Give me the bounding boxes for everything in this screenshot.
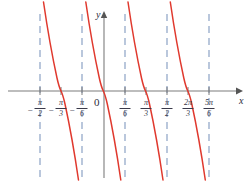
tick-denominator: 6 [120,110,131,119]
x-tick-label-neg-pi-over-2: − π 2 [35,99,46,118]
x-axis-arrow [236,88,243,95]
tick-numerator: π [141,99,152,108]
x-tick-label-pi-over-6: π 6 [120,99,131,118]
tick-denominator: 3 [141,110,152,119]
tick-sign: − [28,106,33,115]
x-tick-label-pi-over-2: π 2 [162,99,173,118]
origin-label: 0 [94,97,100,108]
x-tick-label-2pi-over-3: 2π 3 [183,99,194,118]
asymptote-group [40,14,209,178]
tick-denominator: 6 [77,110,88,119]
tick-denominator: 2 [162,110,173,119]
x-tick-label-neg-pi-over-3: − π 3 [56,99,67,118]
tick-sign: − [49,106,54,115]
tick-denominator: 3 [183,110,194,119]
tick-sign: − [70,106,75,115]
tick-numerator: 2π [183,99,194,108]
plot-canvas [0,0,250,181]
cotangent-graph-figure: − π 2 − π 3 − π 6 π 6 π 3 [0,0,250,181]
tick-numerator: π [162,99,173,108]
x-tick-label-pi-over-3: π 3 [141,99,152,118]
tick-numerator: π [77,99,88,108]
tick-denominator: 6 [204,110,215,119]
tick-numerator: π [56,99,67,108]
tick-numerator: π [35,99,46,108]
x-tick-label-neg-pi-over-6: − π 6 [77,99,88,118]
x-tick-label-5pi-over-6: 5π 6 [204,99,215,118]
tick-denominator: 3 [56,110,67,119]
tick-denominator: 2 [35,110,46,119]
y-axis-arrow [101,11,107,18]
x-axis-label: x [239,96,243,106]
tick-numerator: 5π [204,99,215,108]
tick-numerator: π [120,99,131,108]
y-axis-label: y [96,10,100,20]
